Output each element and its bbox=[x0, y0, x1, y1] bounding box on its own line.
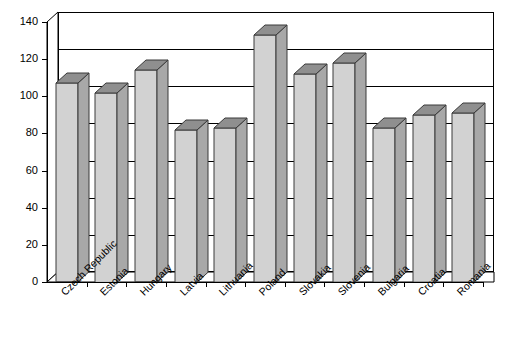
bar-column bbox=[294, 64, 327, 282]
x-axis-tick bbox=[126, 282, 127, 287]
bar-column bbox=[452, 103, 485, 282]
x-axis-tick bbox=[285, 282, 286, 287]
y-axis-tick-label: 120 bbox=[0, 53, 38, 64]
bar-shape bbox=[175, 120, 208, 282]
bar-chart: 020406080100120140 Czech RepublicEstonia… bbox=[0, 0, 506, 359]
bar-front-face bbox=[214, 128, 236, 282]
y-axis-tick-label: 40 bbox=[0, 202, 38, 213]
y-axis-tick-label: 0 bbox=[0, 276, 38, 287]
bar-shape bbox=[56, 73, 89, 282]
bar-column bbox=[413, 105, 446, 282]
bar-column bbox=[135, 60, 168, 282]
bar-shape bbox=[254, 25, 287, 282]
bar-front-face bbox=[254, 35, 276, 282]
x-axis-tick bbox=[404, 282, 405, 287]
bar-side-face bbox=[78, 73, 89, 282]
bar-side-face bbox=[435, 105, 446, 282]
bar-side-face bbox=[157, 60, 168, 282]
bar-front-face bbox=[373, 128, 395, 282]
y-axis-tick bbox=[42, 208, 48, 209]
bar-side-face bbox=[474, 103, 485, 282]
bar-side-face bbox=[355, 53, 366, 282]
bar-side-face bbox=[236, 118, 247, 282]
bar-front-face bbox=[175, 130, 197, 282]
x-axis-tick bbox=[166, 282, 167, 287]
y-axis-tick-label: 100 bbox=[0, 90, 38, 101]
bar-column bbox=[56, 73, 89, 282]
x-axis-tick bbox=[87, 282, 88, 287]
y-axis-tick bbox=[42, 245, 48, 246]
x-axis-tick bbox=[324, 282, 325, 287]
y-axis-tick bbox=[42, 171, 48, 172]
y-axis-tick bbox=[42, 22, 48, 23]
x-axis-tick bbox=[206, 282, 207, 287]
bar-front-face bbox=[333, 63, 355, 282]
bar-side-face bbox=[316, 64, 327, 282]
bar-shape bbox=[452, 103, 485, 282]
bar-shape bbox=[333, 53, 366, 282]
x-axis-tick bbox=[483, 282, 484, 287]
bar-shape bbox=[135, 60, 168, 282]
y-axis-tick-label: 80 bbox=[0, 127, 38, 138]
y-axis-tick bbox=[42, 59, 48, 60]
bar-side-face bbox=[117, 83, 128, 282]
bar-column bbox=[333, 53, 366, 282]
bar-front-face bbox=[452, 113, 474, 282]
bar-column bbox=[373, 118, 406, 282]
bar-shape bbox=[373, 118, 406, 282]
bar-side-face bbox=[276, 25, 287, 282]
bar-front-face bbox=[135, 70, 157, 282]
bar-shape bbox=[413, 105, 446, 282]
bar-front-face bbox=[294, 74, 316, 282]
bar-column bbox=[254, 25, 287, 282]
gridline bbox=[58, 12, 494, 13]
bar-side-face bbox=[197, 120, 208, 282]
y-axis-tick bbox=[42, 133, 48, 134]
bar-shape bbox=[294, 64, 327, 282]
y-axis-line bbox=[47, 22, 48, 282]
bar-front-face bbox=[413, 115, 435, 282]
y-axis-tick-label: 60 bbox=[0, 165, 38, 176]
bar-column bbox=[214, 118, 247, 282]
y-axis-tick-label: 20 bbox=[0, 239, 38, 250]
bar-shape bbox=[214, 118, 247, 282]
x-axis-tick bbox=[364, 282, 365, 287]
bar-front-face bbox=[56, 83, 78, 282]
y-axis-tick bbox=[42, 282, 48, 283]
y-axis-tick bbox=[42, 96, 48, 97]
bar-side-face bbox=[395, 118, 406, 282]
y-axis-labels: 020406080100120140 bbox=[0, 0, 38, 359]
y-axis-tick-label: 140 bbox=[0, 16, 38, 27]
x-axis-tick bbox=[245, 282, 246, 287]
x-axis-tick bbox=[443, 282, 444, 287]
bar-column bbox=[175, 120, 208, 282]
